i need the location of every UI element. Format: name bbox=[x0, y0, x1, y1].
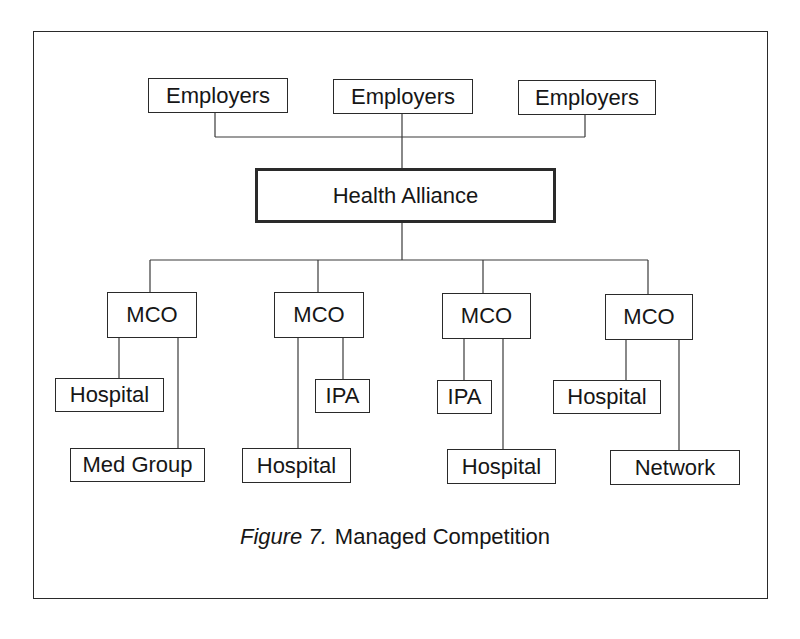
mco-node-4: MCO bbox=[605, 294, 693, 340]
ipa-node-mco3: IPA bbox=[437, 380, 492, 414]
hospital-node-mco3: Hospital bbox=[447, 449, 556, 484]
med-group-node-mco1: Med Group bbox=[70, 448, 205, 482]
mco-node-2: MCO bbox=[274, 292, 364, 338]
employers-node-2: Employers bbox=[333, 79, 473, 114]
health-alliance-node: Health Alliance bbox=[255, 168, 556, 223]
ipa-node-mco2: IPA bbox=[315, 379, 370, 413]
figure-title: Managed Competition bbox=[335, 524, 550, 549]
hospital-node-mco2: Hospital bbox=[242, 448, 351, 483]
mco-node-3: MCO bbox=[442, 293, 531, 339]
employers-node-3: Employers bbox=[518, 80, 656, 115]
hospital-node-mco1: Hospital bbox=[55, 378, 164, 412]
figure-caption: Figure 7.Managed Competition bbox=[240, 524, 550, 550]
employers-node-1: Employers bbox=[148, 78, 288, 113]
network-node-mco4: Network bbox=[610, 450, 740, 485]
mco-node-1: MCO bbox=[107, 292, 197, 338]
figure-number: Figure 7. bbox=[240, 524, 327, 549]
hospital-node-mco4: Hospital bbox=[553, 380, 661, 414]
